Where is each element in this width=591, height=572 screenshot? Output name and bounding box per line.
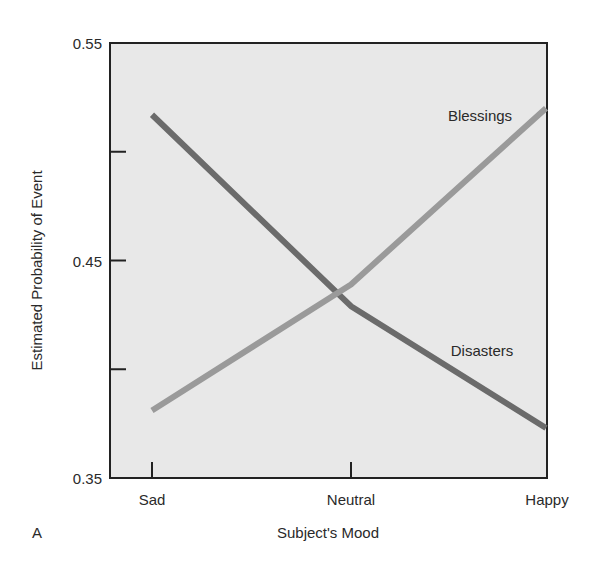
panel-label: A	[32, 524, 42, 541]
y-tick-label: 0.35	[73, 470, 102, 487]
x-tick-label: Neutral	[327, 491, 375, 508]
series-label-blessings: Blessings	[448, 107, 512, 124]
chart: 0.350.450.55SadNeutralHappySubject's Moo…	[0, 0, 591, 572]
y-axis-title: Estimated Probability of Event	[28, 170, 45, 371]
plot-area: 0.350.450.55SadNeutralHappySubject's Moo…	[28, 35, 569, 541]
y-tick-label: 0.45	[73, 253, 102, 270]
x-tick-label: Happy	[525, 491, 569, 508]
series-label-disasters: Disasters	[451, 342, 514, 359]
y-tick-label: 0.55	[73, 35, 102, 52]
x-axis-title: Subject's Mood	[277, 524, 379, 541]
x-tick-label: Sad	[139, 491, 166, 508]
